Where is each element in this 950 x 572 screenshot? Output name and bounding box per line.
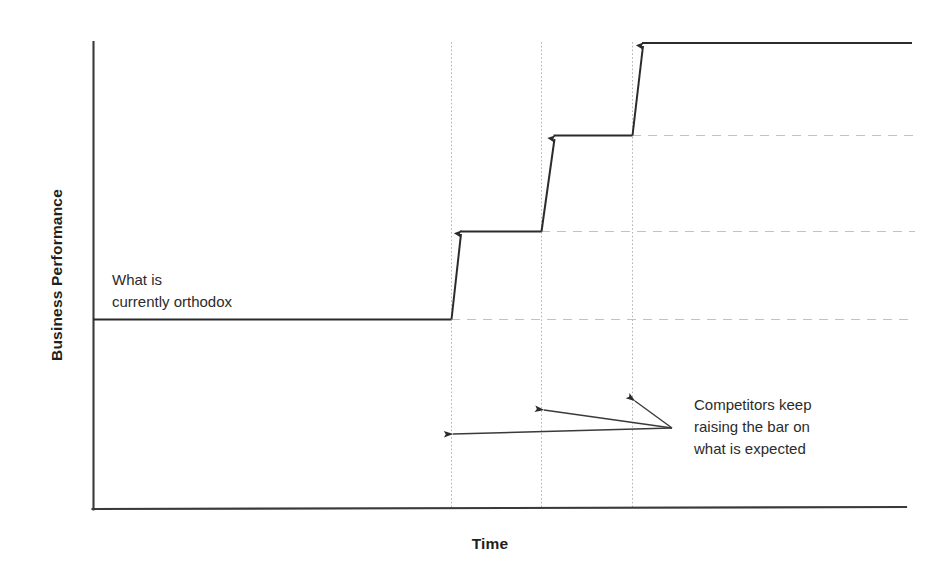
annotation-competitors-line3: what is expected	[693, 440, 806, 457]
annotation-arrow-to-step2	[544, 410, 672, 428]
annotation-competitors-line2: raising the bar on	[694, 418, 810, 435]
annotation-arrow-to-step1	[453, 428, 672, 434]
curve-step1-rise	[452, 234, 462, 320]
x-axis-line	[93, 507, 907, 509]
horizontal-gridlines	[451, 136, 915, 320]
business-performance-chart: Business Performance Time What is curren…	[0, 0, 950, 572]
x-axis-title: Time	[472, 535, 509, 552]
annotation-orthodox: What is currently orthodox	[112, 271, 233, 310]
annotation-orthodox-line1: What is	[112, 271, 162, 288]
y-axis-title: Business Performance	[48, 189, 65, 361]
annotation-orthodox-line2: currently orthodox	[112, 293, 233, 310]
annotation-competitors: Competitors keep raising the bar on what…	[693, 396, 812, 457]
curve-step2-rise	[542, 139, 555, 232]
curve-step3-rise	[633, 46, 644, 136]
annotation-competitors-line1: Competitors keep	[694, 396, 812, 413]
figure-canvas: Business Performance Time What is curren…	[0, 0, 950, 572]
competitor-annotation-arrows	[453, 401, 672, 434]
vertical-step-gridlines	[452, 42, 633, 508]
performance-step-curve	[93, 43, 912, 320]
